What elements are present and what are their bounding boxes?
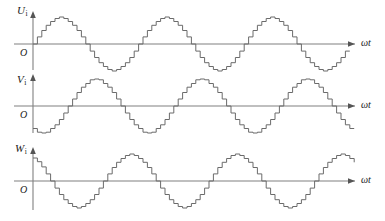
panel-v-x-label: ωt <box>361 100 371 110</box>
panel-u: Ui O ωt <box>0 0 385 73</box>
panel-u-axes <box>14 11 355 70</box>
waveform-figure: Ui O ωt Vi O ωt Wi <box>0 0 385 221</box>
panel-v: Vi O ωt <box>0 73 385 140</box>
panel-u-plot <box>0 0 385 73</box>
panel-u-origin-label: O <box>20 48 27 58</box>
panel-v-plot <box>0 73 385 140</box>
panel-v-axes <box>14 74 355 133</box>
panel-w-axes <box>14 147 355 210</box>
panel-w-origin-label: O <box>20 185 27 195</box>
panel-v-y-label: Vi <box>17 74 26 85</box>
panel-u-x-label: ωt <box>361 38 371 48</box>
panel-w: Wi O ωt <box>0 140 385 221</box>
panel-v-origin-label: O <box>20 110 27 120</box>
panel-w-plot <box>0 140 385 221</box>
panel-w-y-label: Wi <box>15 143 26 154</box>
panel-u-y-label: Ui <box>17 5 27 16</box>
panel-w-x-label: ωt <box>361 175 371 185</box>
